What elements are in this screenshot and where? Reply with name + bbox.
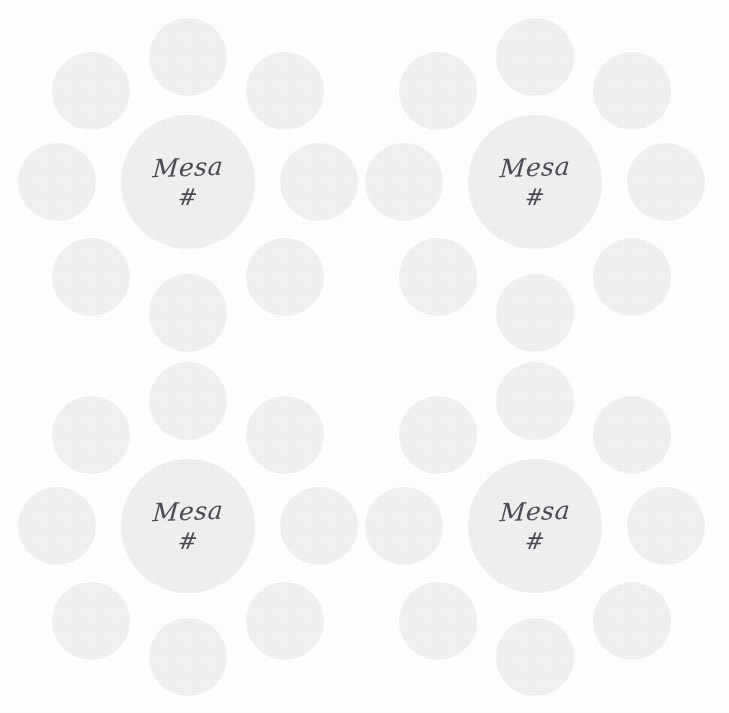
- satellite-dot-e: [280, 487, 358, 565]
- pattern-canvas: Mesa # Mesa # Mesa #: [0, 0, 729, 713]
- satellite-dot-e: [627, 143, 705, 221]
- wordmark-text: Mesa: [499, 154, 571, 181]
- satellite-dot-s: [496, 618, 574, 696]
- satellite-dot-s: [149, 274, 227, 352]
- center-dot: Mesa #: [121, 115, 255, 249]
- hash-symbol: #: [524, 186, 547, 209]
- satellite-dot-nw: [52, 52, 130, 130]
- rosette-motif-top-right: Mesa #: [365, 12, 705, 352]
- satellite-dot-ne: [593, 396, 671, 474]
- satellite-dot-n: [149, 362, 227, 440]
- satellite-dot-w: [365, 487, 443, 565]
- satellite-dot-e: [627, 487, 705, 565]
- satellite-dot-sw: [52, 238, 130, 316]
- satellite-dot-s: [496, 274, 574, 352]
- satellite-dot-se: [593, 238, 671, 316]
- satellite-dot-se: [593, 582, 671, 660]
- satellite-dot-n: [149, 18, 227, 96]
- satellite-dot-e: [280, 143, 358, 221]
- satellite-dot-sw: [399, 582, 477, 660]
- satellite-dot-n: [496, 362, 574, 440]
- wordmark-text: Mesa: [152, 154, 224, 181]
- hash-symbol: #: [177, 530, 200, 553]
- rosette-motif-top-left: Mesa #: [18, 12, 358, 352]
- wordmark-text: Mesa: [499, 498, 571, 525]
- center-dot: Mesa #: [468, 459, 602, 593]
- satellite-dot-ne: [593, 52, 671, 130]
- rosette-motif-bottom-left: Mesa #: [18, 356, 358, 696]
- satellite-dot-sw: [399, 238, 477, 316]
- satellite-dot-ne: [246, 396, 324, 474]
- satellite-dot-n: [496, 18, 574, 96]
- satellite-dot-nw: [52, 396, 130, 474]
- center-dot: Mesa #: [468, 115, 602, 249]
- satellite-dot-nw: [399, 396, 477, 474]
- hash-symbol: #: [177, 186, 200, 209]
- center-dot: Mesa #: [121, 459, 255, 593]
- satellite-dot-w: [18, 143, 96, 221]
- satellite-dot-se: [246, 582, 324, 660]
- satellite-dot-sw: [52, 582, 130, 660]
- satellite-dot-se: [246, 238, 324, 316]
- satellite-dot-nw: [399, 52, 477, 130]
- wordmark-text: Mesa: [152, 498, 224, 525]
- satellite-dot-w: [18, 487, 96, 565]
- hash-symbol: #: [524, 530, 547, 553]
- satellite-dot-w: [365, 143, 443, 221]
- rosette-motif-bottom-right: Mesa #: [365, 356, 705, 696]
- satellite-dot-s: [149, 618, 227, 696]
- satellite-dot-ne: [246, 52, 324, 130]
